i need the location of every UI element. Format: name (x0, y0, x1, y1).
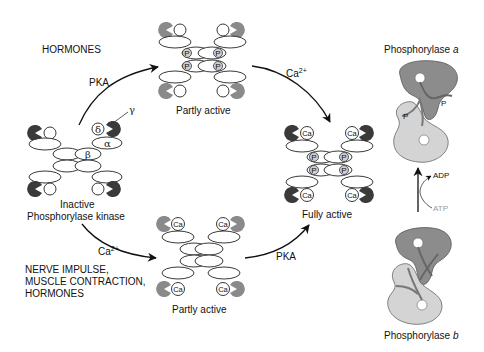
svg-text:β: β (85, 149, 91, 160)
phosphorylase-a: Phosphorylase a P P (384, 44, 459, 162)
svg-text:Inactive: Inactive (60, 199, 95, 210)
arrow-pka-top (79, 67, 158, 125)
phosphate-label: P (441, 99, 446, 108)
svg-text:P: P (341, 166, 346, 175)
svg-text:γ: γ (129, 104, 135, 115)
svg-text:Ca: Ca (218, 285, 228, 294)
svg-text:P: P (311, 166, 316, 175)
adp-label: ADP (433, 171, 449, 180)
svg-text:Ca: Ca (302, 129, 312, 138)
svg-text:Ca2+: Ca2+ (98, 245, 119, 257)
svg-text:α: α (104, 138, 111, 149)
svg-text:MUSCLE CONTRACTION,: MUSCLE CONTRACTION, (25, 276, 146, 287)
svg-text:P: P (184, 62, 189, 71)
svg-text:P: P (341, 153, 346, 162)
svg-text:Ca: Ca (173, 285, 183, 294)
svg-text:P: P (215, 49, 220, 58)
gamma-subunit-icon (27, 181, 42, 197)
fully-active-phosphorylase-kinase: Ca P P Ca Ca P P Ca Fully active (284, 125, 374, 220)
svg-text:Ca: Ca (302, 191, 312, 200)
svg-text:Ca: Ca (347, 129, 357, 138)
partly-active-calcium-bound: Ca Ca Ca Ca Partly active (156, 216, 245, 315)
stimulus-bottom: NERVE IMPULSE, MUSCLE CONTRACTION, HORMO… (25, 264, 146, 299)
svg-text:P: P (215, 62, 220, 71)
gamma-subunit-icon (359, 187, 374, 203)
svg-text:Phosphorylase b: Phosphorylase b (384, 330, 459, 341)
gamma-subunit-icon (284, 187, 299, 203)
gamma-subunit-icon (230, 83, 245, 99)
svg-text:P: P (184, 49, 189, 58)
gamma-subunit-icon (284, 125, 299, 141)
label-ca-bottom: Ca2+ (98, 245, 119, 257)
gamma-subunit-icon (158, 83, 173, 99)
gamma-subunit-icon (156, 281, 171, 297)
svg-text:NERVE IMPULSE,: NERVE IMPULSE, (25, 264, 109, 275)
phosphorylation-arrow: ADP ATP (418, 168, 449, 213)
gamma-subunit-icon (106, 181, 121, 197)
glycogen-phosphorylase-activation-diagram: HORMONES NERVE IMPULSE, MUSCLE CONTRACTI… (0, 0, 484, 352)
svg-text:P: P (311, 153, 316, 162)
gamma-subunit-icon (230, 22, 245, 38)
stimulus-hormones-top: HORMONES (42, 44, 101, 55)
svg-text:Phosphorylase a: Phosphorylase a (384, 44, 459, 55)
phosphate-label: P (403, 112, 408, 121)
gamma-subunit-icon (230, 281, 245, 297)
svg-text:δ: δ (95, 124, 101, 135)
svg-text:Fully active: Fully active (302, 209, 352, 220)
label-pka-bottom: PKA (276, 251, 296, 262)
gamma-subunit-icon (359, 125, 374, 141)
gamma-subunit-icon (156, 216, 171, 232)
label-pka-top: PKA (89, 77, 109, 88)
svg-text:Partly active: Partly active (172, 304, 227, 315)
gamma-subunit-icon (230, 216, 245, 232)
arrow-ca-bottom (82, 224, 156, 258)
gamma-subunit-icon (158, 22, 173, 38)
svg-text:Phosphorylase kinase: Phosphorylase kinase (27, 211, 125, 222)
svg-text:HORMONES: HORMONES (25, 288, 84, 299)
svg-text:Partly active: Partly active (176, 105, 231, 116)
svg-text:Ca: Ca (347, 191, 357, 200)
label-ca-top: Ca2+ (286, 67, 307, 79)
svg-text:Ca: Ca (173, 220, 183, 229)
svg-text:Ca2+: Ca2+ (286, 67, 307, 79)
phosphorylase-b: Phosphorylase b (384, 228, 459, 341)
svg-text:Ca: Ca (218, 220, 228, 229)
atp-label: ATP (433, 204, 448, 213)
gamma-subunit-icon (106, 121, 121, 137)
partly-active-phosphorylated: P P P P Partly active (158, 22, 246, 116)
